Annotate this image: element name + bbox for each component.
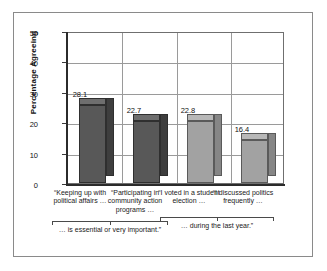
x-axis-line xyxy=(66,184,285,186)
bracket-right-caption: … during the last year.” xyxy=(160,222,274,229)
bar-3 xyxy=(187,114,214,183)
bar-4 xyxy=(241,133,268,183)
bar-2-side xyxy=(160,114,168,176)
bar-1-front xyxy=(79,105,106,183)
y-tick-label-10: 10 xyxy=(8,150,38,159)
bar-2-front xyxy=(133,121,160,183)
y-axis-line xyxy=(66,32,68,185)
bar-3-side xyxy=(214,114,222,176)
bar-1-value-label: 28.1 xyxy=(58,90,102,99)
bar-3-value-label: 22.8 xyxy=(166,106,210,115)
y-tick-label-20: 20 xyxy=(8,120,38,129)
bar-2 xyxy=(133,114,160,183)
y-tick-label-40: 40 xyxy=(8,59,38,68)
y-tick-label-0: 0 xyxy=(8,181,38,190)
bar-2-value-label: 22.7 xyxy=(112,106,156,115)
y-tick-label-50: 50 xyxy=(8,29,38,38)
gridline-40 xyxy=(68,63,283,64)
bracket-left-caption: … is essential or very important.” xyxy=(52,226,168,233)
bar-1 xyxy=(79,98,106,183)
bar-4-top xyxy=(241,133,268,140)
bar-4-value-label: 16.4 xyxy=(220,125,264,134)
bar-2-top xyxy=(133,114,160,121)
bar-4-front xyxy=(241,140,268,183)
bracket-left-center-tick xyxy=(110,221,111,225)
figure-frame: Percentage Agreeing 50 40 30 20 10 0 xyxy=(13,12,313,257)
y-axis-title: Percentage Agreeing xyxy=(29,8,38,138)
y-tick-label-30: 30 xyxy=(8,89,38,98)
bar-4-side xyxy=(268,133,276,176)
bar-3-front xyxy=(187,121,214,183)
bracket-right-center-tick xyxy=(217,217,218,221)
category-separator-3 xyxy=(231,33,232,183)
category-label-4: “I discussed politics frequently … xyxy=(208,189,278,206)
